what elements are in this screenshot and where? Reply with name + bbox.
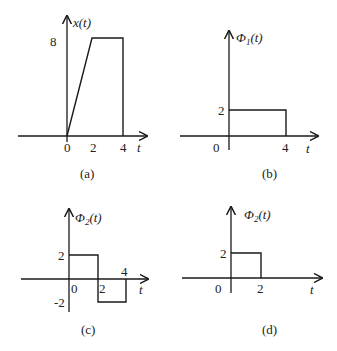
x-tick-2: 2: [257, 281, 264, 296]
x-axis-label: t: [306, 141, 310, 156]
x-tick-0: 0: [215, 281, 222, 296]
x-tick-2: 2: [90, 140, 97, 155]
signal-phi1: [229, 110, 286, 136]
panel-a: x(t) 8 0 2 4 t (a): [18, 15, 147, 181]
x-tick-4: 4: [120, 140, 127, 155]
y-tick-8: 8: [50, 34, 57, 49]
y-axis-label: Φ2(t): [244, 207, 271, 224]
y-axis-label: Φ2(t): [75, 210, 102, 227]
panel-b: Φ1(t) 2 0 4 t (b): [180, 30, 318, 181]
y-axis-label: Φ1(t): [236, 30, 263, 47]
x-tick-0: 0: [213, 140, 220, 155]
caption-b: (b): [262, 166, 277, 181]
signal-x-of-t: [67, 38, 123, 136]
panel-d: Φ2(t) 2 0 2 t (d): [182, 207, 322, 337]
x-tick-0: 0: [64, 140, 71, 155]
x-tick-4: 4: [121, 264, 128, 279]
y-tick-2: 2: [220, 246, 227, 261]
x-axis-label: t: [139, 282, 143, 297]
signal-phi2: [231, 253, 261, 278]
x-tick-2: 2: [99, 281, 106, 296]
y-tick-2: 2: [218, 103, 225, 118]
x-tick-4: 4: [282, 140, 289, 155]
panel-c: Φ2(t) 2 -2 0 2 4 t (c): [21, 209, 148, 337]
y-tick-minus-2: -2: [54, 295, 65, 310]
x-axis-label: t: [137, 140, 141, 155]
y-axis-label: x(t): [72, 15, 91, 30]
x-tick-0: 0: [71, 281, 78, 296]
x-axis-label: t: [310, 282, 314, 297]
figure: x(t) 8 0 2 4 t (a) Φ1(t) 2 0 4 t (b) Φ2(…: [0, 0, 337, 351]
caption-c: (c): [81, 322, 95, 337]
caption-d: (d): [262, 322, 277, 337]
caption-a: (a): [80, 166, 94, 181]
y-tick-2: 2: [58, 248, 65, 263]
